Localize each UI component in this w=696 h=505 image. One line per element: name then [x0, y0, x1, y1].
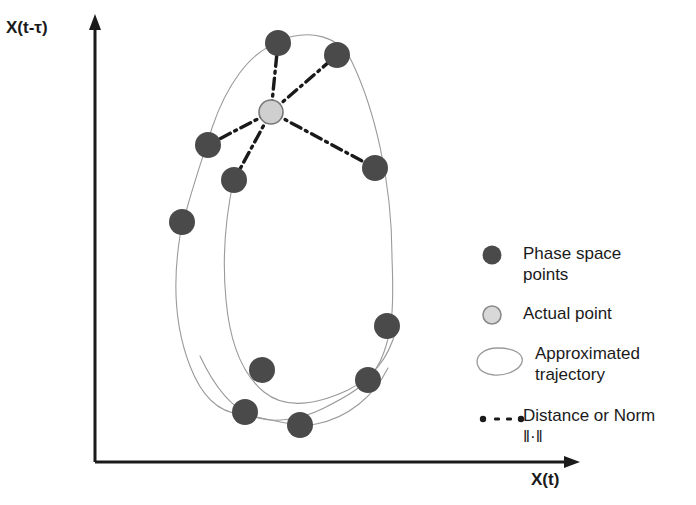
distance-norm-lines	[208, 43, 375, 180]
distance-norm-line	[271, 55, 337, 112]
legend-label-actual-point: Actual point	[523, 303, 612, 324]
x-axis-label: X(t)	[531, 470, 559, 490]
legend-label-approximated-trajectory: Approximated trajectory	[535, 343, 640, 385]
y-axis-label: X(t-τ)	[6, 18, 48, 38]
phase-space-point	[169, 209, 195, 235]
trajectory-path	[200, 35, 393, 420]
legend-label-phase-space-points: Phase space points	[523, 243, 621, 285]
legend-marker-actual-point	[483, 306, 501, 324]
phase-space-point	[362, 155, 388, 181]
y-axis-arrowhead	[89, 14, 101, 30]
legend-label-distance-or-norm: Distance or Norm ‖·‖	[523, 405, 655, 447]
legend-markers-group	[477, 246, 524, 423]
phase-space-point	[287, 412, 313, 438]
distance-norm-line	[271, 112, 375, 168]
phase-space-point	[265, 30, 291, 56]
phase-space-point	[355, 367, 381, 393]
phase-space-points-group	[169, 30, 400, 438]
phase-space-point	[195, 132, 221, 158]
phase-space-point	[374, 313, 400, 339]
legend-marker-approximated-trajectory	[477, 348, 522, 375]
actual-point	[259, 100, 283, 124]
phase-space-point	[221, 167, 247, 193]
x-axis-arrowhead	[564, 456, 580, 468]
legend-marker-distance-or-norm	[480, 416, 524, 422]
axes-group	[89, 14, 580, 468]
phase-space-point	[249, 357, 275, 383]
actual-point-group	[259, 100, 283, 124]
legend-marker-phase-space-points	[483, 246, 502, 265]
phase-space-point	[232, 399, 258, 425]
phase-space-point	[324, 42, 350, 68]
phase-space-diagram: X(t-τ) X(t) Phase space points Actual po…	[0, 0, 696, 505]
approximated-trajectory	[176, 35, 396, 425]
